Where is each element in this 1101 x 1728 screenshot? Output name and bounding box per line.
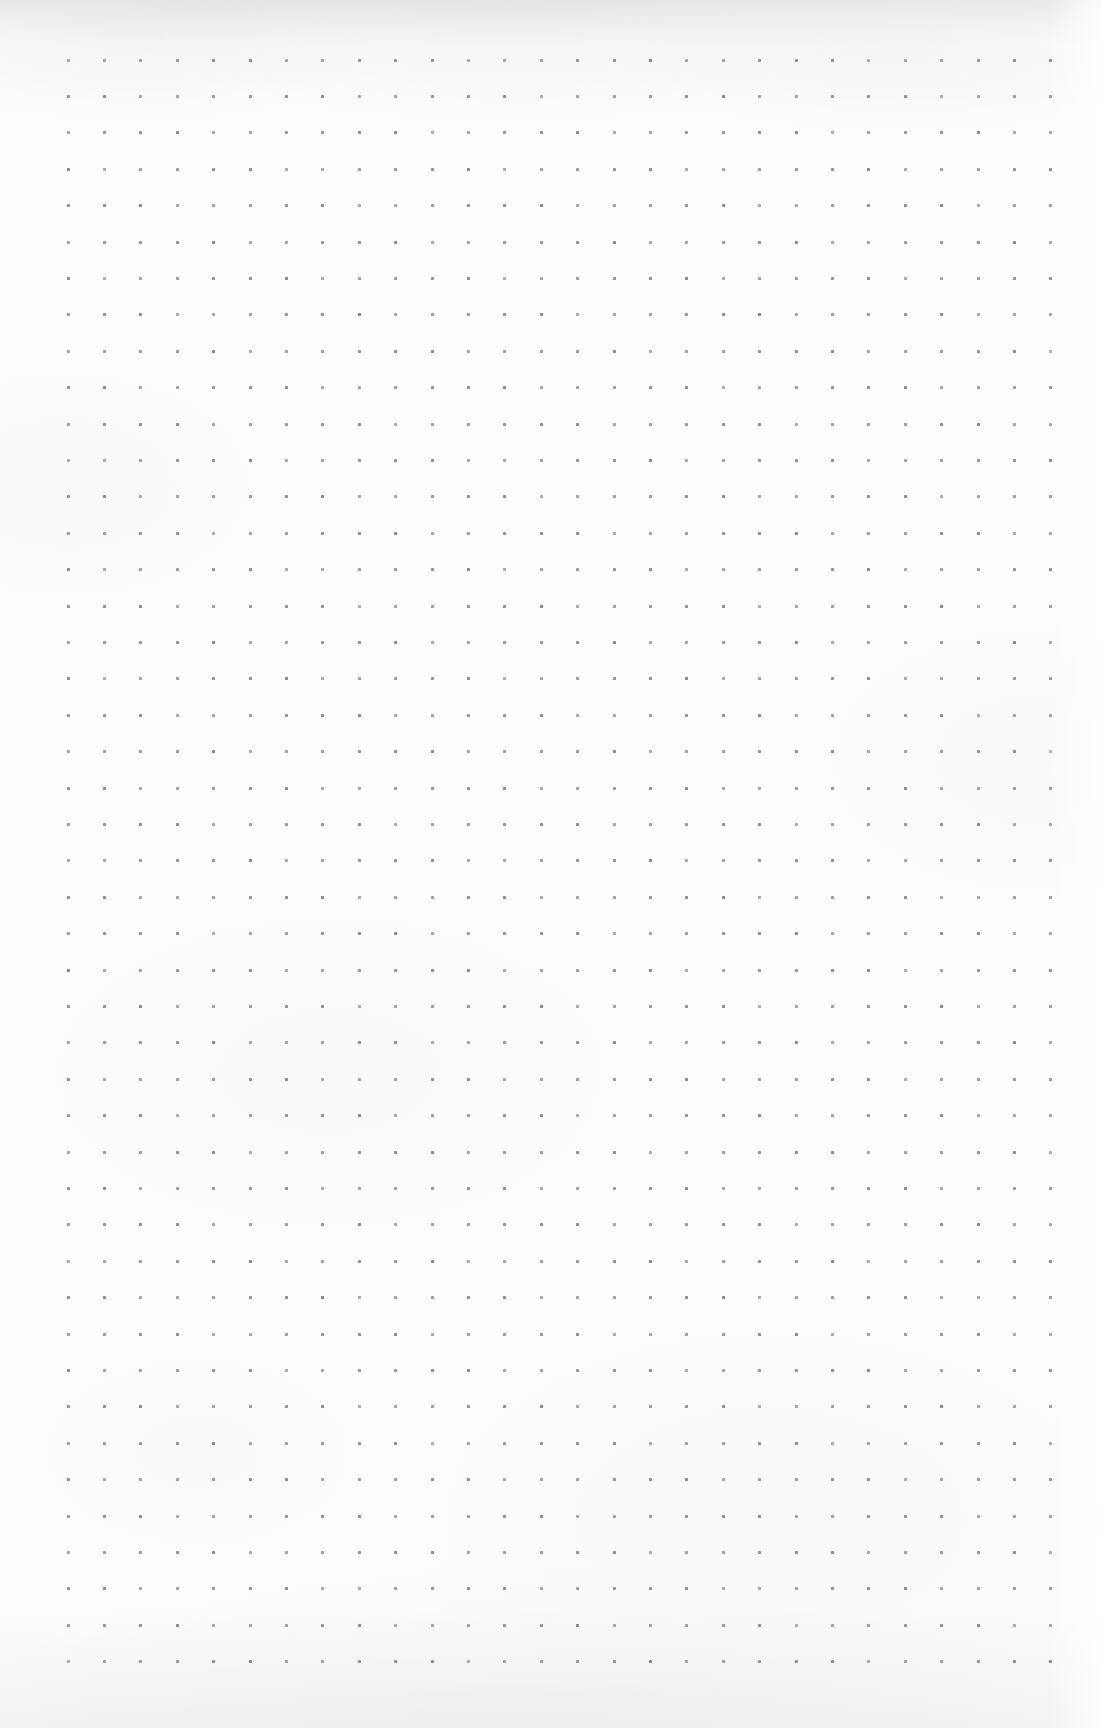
grid-dot	[831, 1405, 834, 1408]
grid-dot	[139, 641, 142, 644]
grid-dot	[758, 605, 761, 608]
grid-dot	[649, 750, 652, 753]
grid-dot	[321, 787, 324, 790]
grid-dot	[212, 95, 215, 98]
grid-dot	[249, 1624, 252, 1627]
grid-dot	[940, 1369, 943, 1372]
grid-dot	[867, 787, 870, 790]
grid-dot	[467, 714, 470, 717]
grid-dot	[977, 1624, 980, 1627]
grid-dot	[1013, 1624, 1016, 1627]
grid-dot	[503, 168, 506, 171]
grid-dot	[321, 495, 324, 498]
grid-dot	[904, 1078, 907, 1081]
grid-dot	[285, 714, 288, 717]
grid-dot	[249, 204, 252, 207]
grid-dot	[940, 1114, 943, 1117]
grid-dot	[977, 1223, 980, 1226]
grid-dot	[831, 787, 834, 790]
grid-dot	[431, 423, 434, 426]
grid-dot	[139, 750, 142, 753]
grid-dot	[977, 1551, 980, 1554]
grid-dot	[977, 1260, 980, 1263]
grid-dot	[176, 1478, 179, 1481]
grid-dot	[1013, 386, 1016, 389]
grid-dot	[867, 750, 870, 753]
grid-dot	[1013, 859, 1016, 862]
grid-dot	[795, 787, 798, 790]
grid-dot	[867, 896, 870, 899]
grid-dot	[503, 787, 506, 790]
grid-dot	[1049, 1223, 1052, 1226]
grid-dot	[503, 1478, 506, 1481]
grid-dot	[103, 1369, 106, 1372]
grid-dot	[139, 1515, 142, 1518]
grid-dot	[685, 1660, 688, 1663]
grid-dot	[685, 896, 688, 899]
grid-dot	[1049, 1624, 1052, 1627]
grid-dot	[685, 168, 688, 171]
grid-dot	[467, 932, 470, 935]
grid-dot	[358, 1151, 361, 1154]
grid-dot	[249, 1405, 252, 1408]
grid-dot	[467, 1223, 470, 1226]
grid-dot	[358, 277, 361, 280]
grid-dot	[1049, 204, 1052, 207]
grid-dot	[139, 896, 142, 899]
grid-dot	[1013, 568, 1016, 571]
grid-dot	[1049, 932, 1052, 935]
grid-dot	[904, 423, 907, 426]
grid-dot	[358, 168, 361, 171]
grid-dot	[176, 823, 179, 826]
grid-dot	[394, 1369, 397, 1372]
grid-dot	[285, 1442, 288, 1445]
grid-dot	[685, 1515, 688, 1518]
grid-dot	[285, 1369, 288, 1372]
grid-dot	[649, 423, 652, 426]
grid-dot	[1013, 459, 1016, 462]
grid-dot	[867, 1442, 870, 1445]
grid-dot	[977, 386, 980, 389]
grid-dot	[431, 1260, 434, 1263]
grid-dot	[67, 787, 70, 790]
grid-dot	[103, 1187, 106, 1190]
grid-dot	[1049, 350, 1052, 353]
grid-dot	[540, 1369, 543, 1372]
grid-dot	[431, 1478, 434, 1481]
grid-dot	[467, 459, 470, 462]
grid-dot	[540, 532, 543, 535]
grid-dot	[940, 859, 943, 862]
grid-dot	[831, 1260, 834, 1263]
grid-dot	[139, 1005, 142, 1008]
grid-dot	[431, 1114, 434, 1117]
grid-dot	[139, 204, 142, 207]
grid-dot	[249, 1005, 252, 1008]
grid-dot	[503, 1151, 506, 1154]
grid-dot	[649, 1187, 652, 1190]
grid-dot	[212, 495, 215, 498]
grid-dot	[1013, 932, 1016, 935]
grid-dot	[1049, 1587, 1052, 1590]
grid-dot	[212, 1005, 215, 1008]
grid-dot	[321, 532, 324, 535]
grid-dot	[467, 532, 470, 535]
grid-dot	[1049, 1005, 1052, 1008]
grid-dot	[176, 1187, 179, 1190]
grid-dot	[722, 714, 725, 717]
grid-dot	[867, 386, 870, 389]
grid-dot	[904, 313, 907, 316]
grid-dot	[758, 1005, 761, 1008]
grid-dot	[649, 641, 652, 644]
grid-dot	[795, 1405, 798, 1408]
grid-dot	[722, 1551, 725, 1554]
grid-dot	[431, 677, 434, 680]
grid-dot	[285, 1223, 288, 1226]
grid-dot	[831, 1187, 834, 1190]
grid-dot	[321, 131, 324, 134]
grid-dot	[977, 1296, 980, 1299]
grid-dot	[139, 1223, 142, 1226]
grid-dot	[394, 1260, 397, 1263]
grid-dot	[394, 1587, 397, 1590]
grid-dot	[358, 750, 361, 753]
grid-dot	[758, 750, 761, 753]
